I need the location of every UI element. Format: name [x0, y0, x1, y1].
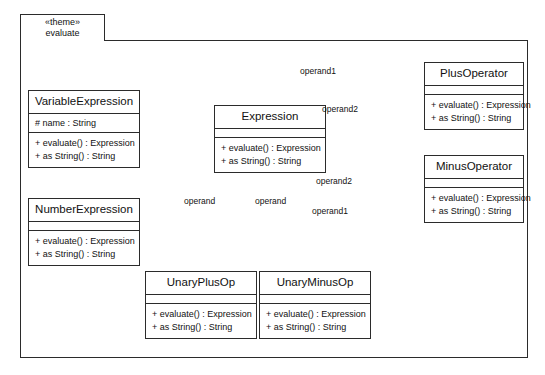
- operation-item: + as String() : String: [221, 155, 319, 168]
- edge-label-minus-operand1: operand1: [312, 206, 348, 216]
- class-operations-expression: + evaluate() : Expression + as String() …: [215, 138, 325, 172]
- package-name: evaluate: [21, 28, 104, 39]
- package-stereotype: «theme»: [21, 17, 104, 28]
- operation-item: + evaluate() : Expression: [266, 308, 364, 321]
- attribute-item: # name : String: [35, 117, 133, 129]
- package-tab[interactable]: «theme» evaluate: [20, 14, 105, 41]
- class-name-expression: Expression: [215, 106, 325, 129]
- class-operations-number-expression: + evaluate() : Expression + as String() …: [29, 231, 139, 265]
- operation-item: + as String() : String: [431, 205, 517, 218]
- class-plus-operator[interactable]: PlusOperator + evaluate() : Expression +…: [424, 62, 524, 130]
- edge-label-unaryminus-operand: operand: [255, 196, 286, 206]
- class-name-variable-expression: VariableExpression: [29, 91, 139, 114]
- class-operations-unary-plus-op: + evaluate() : Expression + as String() …: [146, 304, 256, 338]
- operation-item: + evaluate() : Expression: [35, 137, 133, 150]
- class-attributes-variable-expression: # name : String: [29, 114, 139, 133]
- class-unary-plus-op[interactable]: UnaryPlusOp + evaluate() : Expression + …: [145, 271, 257, 339]
- operation-item: + evaluate() : Expression: [431, 192, 517, 205]
- edge-label-minus-operand2: operand2: [316, 176, 352, 186]
- operation-item: + evaluate() : Expression: [35, 235, 133, 248]
- operation-item: + evaluate() : Expression: [221, 142, 319, 155]
- class-operations-variable-expression: + evaluate() : Expression + as String() …: [29, 133, 139, 167]
- edge-label-plus-operand1: operand1: [300, 66, 336, 76]
- operation-item: + evaluate() : Expression: [431, 99, 517, 112]
- class-name-plus-operator: PlusOperator: [425, 63, 523, 86]
- class-name-unary-plus-op: UnaryPlusOp: [146, 272, 256, 295]
- class-operations-unary-minus-op: + evaluate() : Expression + as String() …: [260, 304, 370, 338]
- class-attributes-unary-plus-op: [146, 295, 256, 304]
- edge-label-unaryplus-operand: operand: [184, 196, 215, 206]
- operation-item: + as String() : String: [35, 248, 133, 261]
- class-number-expression[interactable]: NumberExpression + evaluate() : Expressi…: [28, 198, 140, 266]
- class-operations-minus-operator: + evaluate() : Expression + as String() …: [425, 188, 523, 222]
- class-name-number-expression: NumberExpression: [29, 199, 139, 222]
- class-minus-operator[interactable]: MinusOperator + evaluate() : Expression …: [424, 155, 524, 223]
- operation-item: + as String() : String: [431, 112, 517, 125]
- operation-item: + as String() : String: [152, 321, 250, 334]
- class-expression[interactable]: Expression + evaluate() : Expression + a…: [214, 105, 326, 173]
- class-name-unary-minus-op: UnaryMinusOp: [260, 272, 370, 295]
- class-variable-expression[interactable]: VariableExpression # name : String + eva…: [28, 90, 140, 168]
- operation-item: + as String() : String: [266, 321, 364, 334]
- class-unary-minus-op[interactable]: UnaryMinusOp + evaluate() : Expression +…: [259, 271, 371, 339]
- edge-label-plus-operand2: operand2: [322, 104, 358, 114]
- class-attributes-unary-minus-op: [260, 295, 370, 304]
- class-name-minus-operator: MinusOperator: [425, 156, 523, 179]
- class-attributes-plus-operator: [425, 86, 523, 95]
- operation-item: + evaluate() : Expression: [152, 308, 250, 321]
- class-attributes-expression: [215, 129, 325, 138]
- class-attributes-number-expression: [29, 222, 139, 231]
- operation-item: + as String() : String: [35, 150, 133, 163]
- class-attributes-minus-operator: [425, 179, 523, 188]
- uml-diagram-canvas: «theme» evaluate: [0, 0, 545, 375]
- class-operations-plus-operator: + evaluate() : Expression + as String() …: [425, 95, 523, 129]
